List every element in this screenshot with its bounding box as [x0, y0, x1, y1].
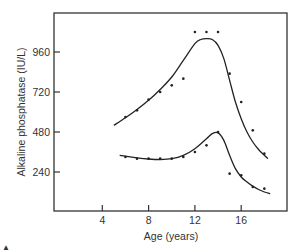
y-axis-label: Alkaline phosphatase (IU/L) [15, 48, 27, 177]
y-axis-ticks: 240480720960 [32, 46, 60, 178]
x-tick-label: 12 [189, 214, 201, 226]
data-point [170, 157, 173, 160]
x-tick-label: 8 [146, 214, 152, 226]
data-point [124, 116, 127, 119]
y-tick-label: 240 [32, 166, 50, 178]
data-point [228, 172, 231, 175]
data-point [136, 157, 139, 160]
x-axis-ticks: 481216 [99, 205, 247, 226]
plot-frame [54, 13, 287, 211]
data-point [182, 77, 185, 80]
data-point [217, 131, 220, 134]
data-point [136, 109, 139, 112]
fit-curves [114, 39, 270, 194]
data-point [147, 98, 150, 101]
data-point [263, 187, 266, 190]
data-point [263, 152, 266, 155]
data-point [159, 157, 162, 160]
chart: 240480720960 481216 Alkaline phosphatase… [0, 0, 301, 251]
corner-mark: ▲ [2, 243, 10, 251]
data-point [251, 129, 254, 132]
data-point [124, 156, 127, 159]
data-point [240, 174, 243, 177]
fit-curve-upper [114, 39, 268, 159]
data-points [124, 31, 266, 190]
y-tick-label: 960 [32, 46, 50, 58]
data-point [194, 151, 197, 154]
x-tick-label: 4 [99, 214, 105, 226]
data-point [182, 156, 185, 159]
data-point [217, 31, 220, 34]
data-point [240, 101, 243, 104]
y-tick-label: 480 [32, 126, 50, 138]
x-tick-label: 16 [235, 214, 247, 226]
data-point [147, 157, 150, 160]
data-point [194, 31, 197, 34]
x-axis-label: Age (years) [144, 230, 198, 242]
data-point [205, 31, 208, 34]
data-point [159, 91, 162, 94]
data-point [170, 84, 173, 87]
y-tick-label: 720 [32, 86, 50, 98]
data-point [228, 72, 231, 75]
fit-curve-lower [120, 132, 270, 193]
data-point [251, 186, 254, 189]
data-point [205, 144, 208, 147]
